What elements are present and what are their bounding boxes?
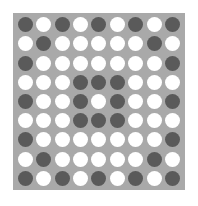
- board-cell-r9-c6[interactable]: [108, 169, 126, 188]
- board-cell-r6-c8[interactable]: [145, 111, 163, 130]
- board-cell-r9-c9[interactable]: [164, 169, 182, 188]
- light-disc: [18, 75, 33, 90]
- board-cell-r3-c7[interactable]: [127, 53, 145, 72]
- board-cell-r1-c4[interactable]: [71, 15, 89, 34]
- board-cell-r6-c3[interactable]: [53, 111, 71, 130]
- board-cell-r8-c5[interactable]: [90, 150, 108, 169]
- board-cell-r3-c3[interactable]: [53, 53, 71, 72]
- board-cell-r9-c7[interactable]: [127, 169, 145, 188]
- board-cell-r2-c4[interactable]: [71, 34, 89, 53]
- board-cell-r7-c4[interactable]: [71, 130, 89, 149]
- board-cell-r4-c8[interactable]: [145, 73, 163, 92]
- board-cell-r5-c3[interactable]: [53, 92, 71, 111]
- board-cell-r2-c8[interactable]: [145, 34, 163, 53]
- board-cell-r8-c7[interactable]: [127, 150, 145, 169]
- dark-disc: [110, 94, 125, 109]
- board-cell-r8-c2[interactable]: [34, 150, 52, 169]
- board-cell-r2-c1[interactable]: [16, 34, 34, 53]
- board-cell-r4-c2[interactable]: [34, 73, 52, 92]
- board-cell-r1-c1[interactable]: [16, 15, 34, 34]
- board-cell-r3-c9[interactable]: [164, 53, 182, 72]
- board-cell-r7-c8[interactable]: [145, 130, 163, 149]
- board-cell-r4-c1[interactable]: [16, 73, 34, 92]
- board-cell-r8-c8[interactable]: [145, 150, 163, 169]
- board-cell-r6-c2[interactable]: [34, 111, 52, 130]
- board-cell-r7-c2[interactable]: [34, 130, 52, 149]
- board-cell-r4-c3[interactable]: [53, 73, 71, 92]
- dark-disc: [91, 17, 106, 32]
- dark-disc: [147, 152, 162, 167]
- board-cell-r4-c9[interactable]: [164, 73, 182, 92]
- dark-disc: [165, 17, 180, 32]
- dark-disc: [18, 56, 33, 71]
- board-cell-r5-c8[interactable]: [145, 92, 163, 111]
- board-cell-r8-c9[interactable]: [164, 150, 182, 169]
- board-cell-r9-c2[interactable]: [34, 169, 52, 188]
- board-cell-r5-c5[interactable]: [90, 92, 108, 111]
- board-cell-r8-c6[interactable]: [108, 150, 126, 169]
- board-cell-r1-c5[interactable]: [90, 15, 108, 34]
- board-cell-r5-c7[interactable]: [127, 92, 145, 111]
- board-cell-r6-c5[interactable]: [90, 111, 108, 130]
- light-disc: [165, 113, 180, 128]
- light-disc: [36, 113, 51, 128]
- board-cell-r5-c1[interactable]: [16, 92, 34, 111]
- board-cell-r6-c9[interactable]: [164, 111, 182, 130]
- board-cell-r4-c7[interactable]: [127, 73, 145, 92]
- board-cell-r1-c9[interactable]: [164, 15, 182, 34]
- light-disc: [165, 75, 180, 90]
- board-cell-r3-c6[interactable]: [108, 53, 126, 72]
- board-cell-r2-c7[interactable]: [127, 34, 145, 53]
- board-cell-r5-c4[interactable]: [71, 92, 89, 111]
- board-cell-r4-c4[interactable]: [71, 73, 89, 92]
- dark-disc: [73, 75, 88, 90]
- light-disc: [147, 171, 162, 186]
- dark-disc: [165, 56, 180, 71]
- board-cell-r5-c2[interactable]: [34, 92, 52, 111]
- board-cell-r7-c7[interactable]: [127, 130, 145, 149]
- board-cell-r7-c9[interactable]: [164, 130, 182, 149]
- board-cell-r3-c5[interactable]: [90, 53, 108, 72]
- board-cell-r4-c5[interactable]: [90, 73, 108, 92]
- board-cell-r3-c1[interactable]: [16, 53, 34, 72]
- board-cell-r6-c1[interactable]: [16, 111, 34, 130]
- light-disc: [55, 152, 70, 167]
- board-cell-r8-c1[interactable]: [16, 150, 34, 169]
- board-cell-r9-c4[interactable]: [71, 169, 89, 188]
- dark-disc: [18, 17, 33, 32]
- board-cell-r9-c8[interactable]: [145, 169, 163, 188]
- board-cell-r3-c2[interactable]: [34, 53, 52, 72]
- board-cell-r9-c5[interactable]: [90, 169, 108, 188]
- light-disc: [55, 75, 70, 90]
- board-cell-r6-c6[interactable]: [108, 111, 126, 130]
- board-cell-r6-c7[interactable]: [127, 111, 145, 130]
- board-cell-r8-c3[interactable]: [53, 150, 71, 169]
- board-cell-r3-c8[interactable]: [145, 53, 163, 72]
- board-cell-r7-c3[interactable]: [53, 130, 71, 149]
- board-cell-r3-c4[interactable]: [71, 53, 89, 72]
- board-cell-r5-c9[interactable]: [164, 92, 182, 111]
- light-disc: [91, 94, 106, 109]
- board-cell-r9-c1[interactable]: [16, 169, 34, 188]
- board-cell-r9-c3[interactable]: [53, 169, 71, 188]
- board-cell-r7-c1[interactable]: [16, 130, 34, 149]
- board-cell-r7-c5[interactable]: [90, 130, 108, 149]
- board-cell-r1-c3[interactable]: [53, 15, 71, 34]
- board-cell-r2-c3[interactable]: [53, 34, 71, 53]
- board-cell-r8-c4[interactable]: [71, 150, 89, 169]
- light-disc: [147, 75, 162, 90]
- board-cell-r1-c2[interactable]: [34, 15, 52, 34]
- board-cell-r1-c6[interactable]: [108, 15, 126, 34]
- board-cell-r5-c6[interactable]: [108, 92, 126, 111]
- board-cell-r7-c6[interactable]: [108, 130, 126, 149]
- board-cell-r2-c5[interactable]: [90, 34, 108, 53]
- board-cell-r1-c8[interactable]: [145, 15, 163, 34]
- board-cell-r2-c9[interactable]: [164, 34, 182, 53]
- board-cell-r6-c4[interactable]: [71, 111, 89, 130]
- board-cell-r1-c7[interactable]: [127, 15, 145, 34]
- light-disc: [110, 132, 125, 147]
- board-cell-r2-c6[interactable]: [108, 34, 126, 53]
- board-cell-r4-c6[interactable]: [108, 73, 126, 92]
- light-disc: [55, 56, 70, 71]
- board-cell-r2-c2[interactable]: [34, 34, 52, 53]
